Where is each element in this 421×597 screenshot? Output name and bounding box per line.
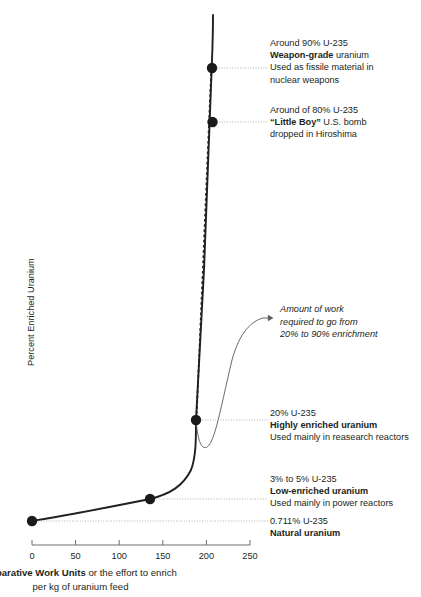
- x-axis-caption-rest: or the effort to enrich: [86, 567, 177, 578]
- annotation-little-boy-bold: “Little Boy”: [270, 117, 321, 127]
- y-axis-label: Percent Enriched Uranium: [26, 258, 36, 366]
- annotation-low-enriched-line3: Used mainly in power reactors: [270, 497, 393, 509]
- annotation-weapon-grade-line4: nuclear weapons: [270, 74, 374, 86]
- annotation-weapon-grade-rest: uranium: [333, 50, 369, 60]
- annotation-natural-uranium-line1: 0.711% U-235: [270, 515, 340, 527]
- callout-amount-of-work-line3: 20% to 90% enrichment: [280, 328, 378, 341]
- annotation-weapon-grade-line2: Weapon-grade uranium: [270, 49, 374, 61]
- work-callout-arrow: [196, 318, 263, 448]
- callout-amount-of-work-line2: required to go from: [280, 316, 378, 329]
- x-tick-label-150: 150: [143, 551, 183, 561]
- x-tick-label-50: 50: [56, 551, 96, 561]
- work-callout-arrowhead: [263, 315, 273, 320]
- annotation-weapon-grade: Around 90% U-235 Weapon-grade uranium Us…: [270, 37, 374, 86]
- x-tick-label-0: 0: [12, 551, 52, 561]
- x-tick-label-250: 250: [230, 551, 270, 561]
- annotation-low-enriched: 3% to 5% U-235 Low-enriched uranium Used…: [270, 473, 393, 510]
- annotation-natural-uranium-line2: Natural uranium: [270, 527, 340, 539]
- annotation-highly-enriched-line2: Highly enriched uranium: [270, 419, 409, 431]
- annotation-highly-enriched: 20% U-235 Highly enriched uranium Used m…: [270, 407, 409, 444]
- enrichment-curve: [32, 15, 213, 521]
- annotation-little-boy: Around of 80% U-235 “Little Boy” U.S. bo…: [270, 104, 367, 141]
- callout-amount-of-work-line1: Amount of work: [280, 303, 378, 316]
- data-point-weapon-grade[interactable]: [207, 63, 217, 73]
- annotation-natural-uranium: 0.711% U-235 Natural uranium: [270, 515, 340, 539]
- annotation-low-enriched-line2: Low-enriched uranium: [270, 485, 393, 497]
- x-tick-label-200: 200: [186, 551, 226, 561]
- annotation-highly-enriched-line3: Used mainly in reasearch reactors: [270, 431, 409, 443]
- annotation-weapon-grade-line1: Around 90% U-235: [270, 37, 374, 49]
- data-point-little-boy[interactable]: [207, 117, 217, 127]
- callout-amount-of-work: Amount of work required to go from 20% t…: [280, 303, 378, 341]
- data-point-low-enriched[interactable]: [145, 494, 155, 504]
- x-axis-caption-line1: Separative Work Units or the effort to e…: [0, 566, 291, 580]
- x-axis-caption-line2: per kg of uranium feed: [0, 580, 291, 594]
- chart-container: Percent Enriched Uranium 0 50 100 150 20…: [0, 0, 421, 597]
- annotation-low-enriched-line1: 3% to 5% U-235: [270, 473, 393, 485]
- x-axis: [32, 540, 250, 545]
- annotation-highly-enriched-line1: 20% U-235: [270, 407, 409, 419]
- annotation-little-boy-rest: U.S. bomb: [321, 117, 367, 127]
- annotation-little-boy-line2: “Little Boy” U.S. bomb: [270, 116, 367, 128]
- annotation-weapon-grade-line3: Used as fissile material in: [270, 61, 374, 73]
- annotation-little-boy-line3: dropped in Hiroshima: [270, 128, 367, 140]
- data-point-highly-enriched[interactable]: [191, 415, 201, 425]
- x-tick-label-100: 100: [99, 551, 139, 561]
- annotation-little-boy-line1: Around of 80% U-235: [270, 104, 367, 116]
- x-axis-caption-bold: Separative Work Units: [0, 567, 86, 578]
- work-dashed-line: [197, 64, 212, 419]
- annotation-weapon-grade-bold: Weapon-grade: [270, 50, 333, 60]
- data-point-natural[interactable]: [27, 516, 37, 526]
